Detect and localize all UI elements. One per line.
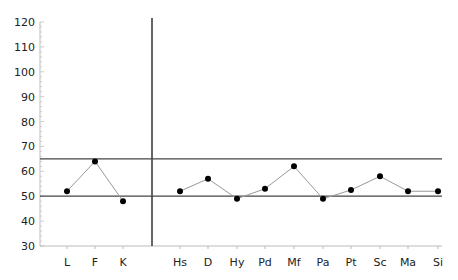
y-tick-label: 60 <box>21 165 35 178</box>
x-tick-label-Si: Si <box>433 256 443 269</box>
data-point-Ma <box>405 188 411 194</box>
data-point-Si <box>435 188 441 194</box>
x-tick-label-Pt: Pt <box>346 256 358 269</box>
y-tick-label: 90 <box>21 91 35 104</box>
x-tick-label-D: D <box>204 256 212 269</box>
data-point-Pd <box>262 186 268 192</box>
x-tick-label-Mf: Mf <box>287 256 301 269</box>
data-point-Hy <box>234 196 240 202</box>
y-tick-label: 110 <box>14 41 35 54</box>
x-tick-label-Hs: Hs <box>173 256 187 269</box>
x-tick-label-Pa: Pa <box>317 256 330 269</box>
y-tick-label: 40 <box>21 215 35 228</box>
x-tick-label-Ma: Ma <box>400 256 416 269</box>
data-point-Pa <box>320 196 326 202</box>
data-point-Sc <box>377 173 383 179</box>
y-tick-label: 70 <box>21 140 35 153</box>
y-tick-label: 100 <box>14 66 35 79</box>
y-tick-label: 30 <box>21 240 35 253</box>
data-point-Pt <box>348 187 354 193</box>
data-point-K <box>120 198 126 204</box>
data-point-L <box>64 188 70 194</box>
validity-series-line <box>67 161 123 201</box>
profile-chart: 30405060708090100110120LFKHsDHyPdMfPaPtS… <box>0 0 458 280</box>
x-tick-label-F: F <box>92 256 98 269</box>
x-tick-label-Sc: Sc <box>373 256 386 269</box>
x-tick-label-Hy: Hy <box>230 256 245 269</box>
x-tick-label-K: K <box>119 256 127 269</box>
clinical-series-line <box>180 166 438 198</box>
y-tick-label: 50 <box>21 190 35 203</box>
y-tick-label: 80 <box>21 116 35 129</box>
y-tick-label: 120 <box>14 16 35 29</box>
x-tick-label-L: L <box>64 256 71 269</box>
x-tick-label-Pd: Pd <box>258 256 272 269</box>
data-point-Hs <box>177 188 183 194</box>
data-point-Mf <box>291 163 297 169</box>
data-point-D <box>205 176 211 182</box>
data-point-F <box>92 158 98 164</box>
